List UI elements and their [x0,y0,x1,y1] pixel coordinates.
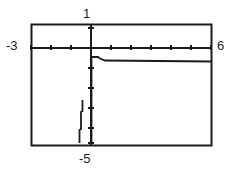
calculator-screen: 1 -3 6 -5 [0,0,235,173]
axes-group [32,25,211,145]
viewport-frame [32,25,212,146]
plot-area [0,0,235,173]
curve-right-branch [92,57,212,143]
curve-left-branch [80,100,83,143]
